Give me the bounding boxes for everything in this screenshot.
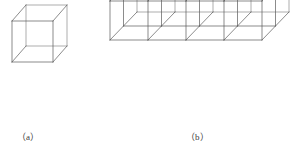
wireframe-edge [162, 12, 176, 26]
panel-a-cube-wireframe [12, 5, 67, 62]
wireframe-edge [224, 26, 238, 40]
wireframe-edge [200, 12, 214, 26]
wireframe-edge [186, 26, 200, 40]
wireframe-edge [12, 46, 26, 62]
wireframe-edge [110, 26, 124, 40]
wireframe-edge [124, 12, 138, 26]
wireframe-figure-canvas [0, 0, 302, 151]
figure-container: （a） （b） [0, 0, 302, 151]
panel-b-caption: （b） [186, 130, 209, 143]
wireframe-edge [262, 26, 276, 40]
panel-b-grid-wireframe [110, 0, 289, 40]
wireframe-edge [262, 0, 276, 1]
wireframe-edge [238, 12, 252, 26]
wireframe-edge [53, 46, 67, 62]
wireframe-edge [53, 5, 67, 21]
wireframe-edge [148, 26, 162, 40]
wireframe-edge [12, 5, 26, 21]
panel-a-caption: （a） [17, 130, 39, 143]
wireframe-edge [276, 12, 290, 26]
